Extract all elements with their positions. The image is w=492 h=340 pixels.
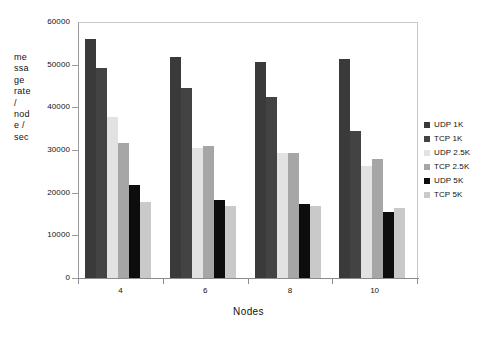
y-tick-label: 0	[34, 274, 70, 282]
bar[interactable]	[96, 68, 107, 278]
legend-item-udp-2-5k[interactable]: UDP 2.5K	[424, 146, 490, 159]
bar-group-4	[85, 22, 151, 278]
legend-swatch-icon	[424, 136, 430, 142]
legend-item-udp-1k[interactable]: UDP 1K	[424, 118, 490, 131]
y-tick-label: 60000	[34, 18, 70, 26]
legend-swatch-icon	[424, 122, 430, 128]
bar[interactable]	[266, 97, 277, 278]
x-tick-label: 10	[370, 286, 379, 296]
y-tick-mark	[72, 65, 78, 66]
x-tick-mark	[78, 278, 79, 284]
bar-group-6	[170, 22, 236, 278]
bar[interactable]	[129, 185, 140, 278]
bar[interactable]	[255, 62, 266, 278]
y-tick-mark	[72, 193, 78, 194]
y-axis-tick-labels: 0100002000030000400005000060000	[34, 0, 70, 340]
legend-swatch-icon	[424, 178, 430, 184]
x-tick-mark	[248, 278, 249, 284]
legend-swatch-icon	[424, 164, 430, 170]
bar-chart: me ssa ge rate / nod e / sec 01000020000…	[0, 0, 492, 340]
y-tick-mark	[72, 235, 78, 236]
bar[interactable]	[310, 206, 321, 278]
legend-item-tcp-1k[interactable]: TCP 1K	[424, 132, 490, 145]
x-tick-label: 4	[118, 286, 122, 296]
y-tick-label: 40000	[34, 103, 70, 111]
bar-group-10	[339, 22, 405, 278]
legend-label: TCP 1K	[434, 134, 462, 143]
bar[interactable]	[192, 148, 203, 278]
x-tick-label: 8	[288, 286, 292, 296]
x-axis-title: Nodes	[78, 306, 419, 317]
bar[interactable]	[107, 117, 118, 278]
x-tick-label: 6	[203, 286, 207, 296]
bar[interactable]	[225, 206, 236, 278]
bar[interactable]	[140, 202, 151, 278]
legend-item-tcp-2-5k[interactable]: TCP 2.5K	[424, 160, 490, 173]
bar[interactable]	[372, 159, 383, 278]
y-tick-label: 10000	[34, 231, 70, 239]
bars-container	[79, 22, 418, 278]
y-tick-mark	[72, 107, 78, 108]
bar-group-8	[255, 22, 321, 278]
y-tick-label: 20000	[34, 189, 70, 197]
chart-legend: UDP 1KTCP 1KUDP 2.5KTCP 2.5KUDP 5KTCP 5K	[424, 118, 490, 202]
bar[interactable]	[85, 39, 96, 278]
bar[interactable]	[203, 146, 214, 278]
legend-label: TCP 2.5K	[434, 162, 469, 171]
legend-swatch-icon	[424, 150, 430, 156]
legend-label: UDP 5K	[434, 176, 463, 185]
legend-item-udp-5k[interactable]: UDP 5K	[424, 174, 490, 187]
x-axis-tick-labels: 46810	[78, 278, 419, 308]
bar[interactable]	[299, 204, 310, 278]
bar[interactable]	[277, 153, 288, 278]
legend-label: TCP 5K	[434, 190, 462, 199]
x-tick-mark	[163, 278, 164, 284]
legend-label: UDP 1K	[434, 120, 463, 129]
legend-swatch-icon	[424, 192, 430, 198]
legend-item-tcp-5k[interactable]: TCP 5K	[424, 188, 490, 201]
bar[interactable]	[118, 143, 129, 278]
y-tick-label: 30000	[34, 146, 70, 154]
bar[interactable]	[339, 59, 350, 278]
bar[interactable]	[350, 131, 361, 278]
bar[interactable]	[214, 200, 225, 278]
bar[interactable]	[383, 212, 394, 278]
legend-label: UDP 2.5K	[434, 148, 470, 157]
bar[interactable]	[181, 88, 192, 278]
bar[interactable]	[394, 208, 405, 278]
x-tick-mark	[332, 278, 333, 284]
bar[interactable]	[170, 57, 181, 278]
y-tick-mark	[72, 278, 78, 279]
x-tick-mark	[417, 278, 418, 284]
y-tick-mark	[72, 150, 78, 151]
bar[interactable]	[288, 153, 299, 278]
bar[interactable]	[361, 166, 372, 278]
y-tick-label: 50000	[34, 61, 70, 69]
